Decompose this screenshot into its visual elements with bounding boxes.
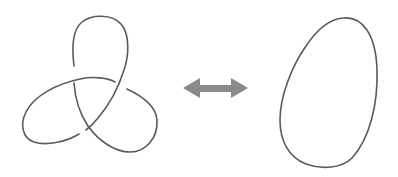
double-headed-arrow-icon: [183, 78, 248, 98]
trefoil-strand-left-lobe: [23, 78, 115, 144]
unknot-loop: [280, 18, 377, 168]
knot-comparison-diagram: Trefoil knot ↔ Unknot: [0, 0, 398, 177]
trefoil-strand-right-lobe: [74, 83, 157, 152]
trefoil-knot: [23, 16, 157, 152]
trefoil-knot-figure: [0, 0, 398, 177]
unknot-strand: [280, 18, 377, 168]
